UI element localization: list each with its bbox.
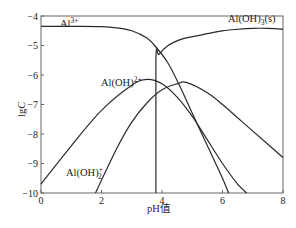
y-axis-title: lgC [16,101,27,117]
y-tick-label: −9 [27,158,38,169]
chart: 02468−4−5−6−7−8−9−10 Al3+ Al(OH)2+ Al(OH… [0,0,296,228]
x-tick-label: 8 [281,195,286,206]
y-tick-label: −4 [27,11,38,22]
curve-aloh2-plus [96,82,284,193]
x-tick-label: 0 [39,195,44,206]
curve-aloh3-s [156,28,283,193]
label-aloh2-plus: Al(OH)+2 [66,165,103,181]
label-al3: Al3+ [60,16,78,29]
x-tick-label: 6 [220,195,225,206]
label-aloh3-s: Al(OH)3(s) [228,13,276,27]
y-tick-label: −6 [27,70,38,81]
axis-ticks: 02468−4−5−6−7−8−9−10 [22,11,285,207]
x-axis-title: pH值 [147,202,171,214]
y-tick-label: −10 [22,188,38,199]
y-tick-label: −5 [27,40,38,51]
label-aloh-2plus: Al(OH)2+ [101,75,142,89]
x-tick-label: 2 [99,195,104,206]
y-tick-label: −8 [27,129,38,140]
y-tick-label: −7 [27,99,38,110]
